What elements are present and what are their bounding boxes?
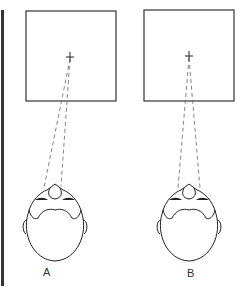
brow-line bbox=[163, 209, 215, 218]
panel-label-a: A bbox=[43, 266, 50, 278]
head-top-view-icon bbox=[23, 184, 87, 261]
line-of-sight-right bbox=[61, 59, 70, 186]
panel-label-b: B bbox=[187, 267, 194, 279]
panel-b bbox=[144, 10, 234, 261]
head-outline bbox=[26, 214, 83, 261]
left-eye bbox=[35, 198, 48, 200]
binocular-fixation-diagram bbox=[0, 0, 249, 290]
line-of-sight-left bbox=[178, 58, 189, 188]
brow-line bbox=[29, 209, 81, 218]
nose bbox=[49, 188, 62, 199]
right-eye bbox=[196, 198, 209, 200]
panel-a bbox=[23, 11, 116, 261]
nose bbox=[183, 188, 196, 199]
left-eye bbox=[169, 198, 182, 200]
right-eye bbox=[62, 198, 75, 200]
screen-square bbox=[26, 11, 116, 101]
line-of-sight-left bbox=[44, 59, 70, 188]
head-outline bbox=[160, 214, 217, 261]
line-of-sight-right bbox=[189, 58, 200, 188]
head-top-view-icon bbox=[157, 184, 221, 261]
